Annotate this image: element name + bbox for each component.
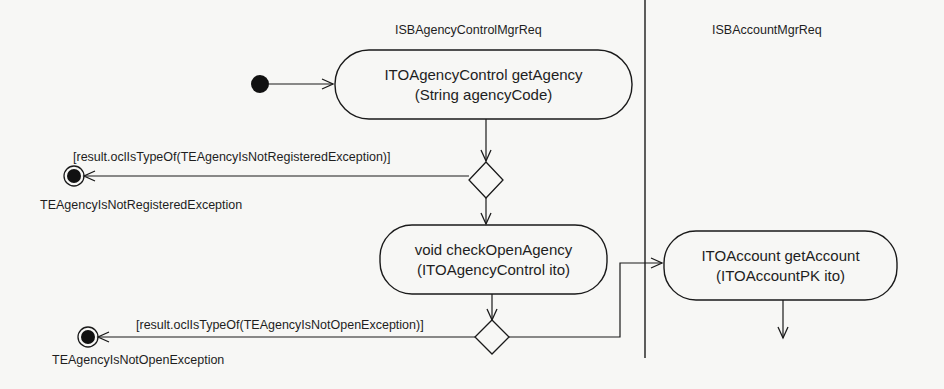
initial-node	[251, 75, 269, 93]
activity-get-agency-label: ITOAgencyControl getAgency (String agenc…	[335, 50, 632, 119]
activity-get-account-params: (ITOAccountPK ito)	[716, 266, 845, 286]
activity-diagram: ISBAgencyControlMgrReq ISBAccountMgrReq …	[0, 0, 944, 389]
decision-node-2	[475, 320, 509, 354]
final-node-not-registered	[64, 166, 84, 186]
activity-get-account-label: ITOAccount getAccount (ITOAccountPK ito)	[664, 231, 897, 300]
activity-get-account-signature: ITOAccount getAccount	[701, 246, 859, 266]
decision-node-1	[469, 162, 503, 198]
guard-not-registered: [result.oclIsTypeOf(TEAgencyIsNotRegiste…	[73, 150, 391, 164]
activity-get-agency-signature: ITOAgencyControl getAgency	[384, 65, 582, 85]
final-node-not-open	[78, 327, 98, 347]
activity-check-open-agency-params: (ITOAgencyControl ito)	[417, 260, 570, 280]
swimlane-title-agency-control: ISBAgencyControlMgrReq	[395, 23, 542, 37]
activity-get-agency-params: (String agencyCode)	[415, 85, 553, 105]
swimlane-title-account: ISBAccountMgrReq	[712, 23, 822, 37]
final-label-not-registered: TEAgencyIsNotRegisteredException	[40, 198, 242, 212]
guard-not-open: [result.oclIsTypeOf(TEAgencyIsNotOpenExc…	[136, 318, 424, 332]
activity-check-open-agency-label: void checkOpenAgency (ITOAgencyControl i…	[380, 225, 607, 294]
final-label-not-open: TEAgencyIsNotOpenException	[52, 353, 224, 367]
activity-check-open-agency-signature: void checkOpenAgency	[415, 240, 573, 260]
